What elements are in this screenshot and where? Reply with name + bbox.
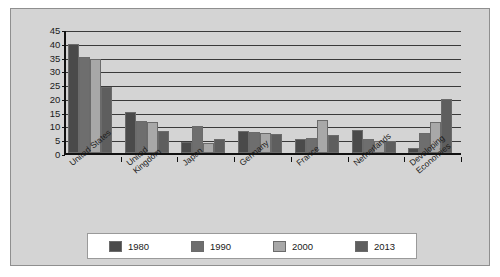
- y-axis-tick-mark: [62, 59, 65, 60]
- plot-area: [64, 31, 461, 155]
- x-axis-tick-mark: [234, 157, 235, 162]
- y-axis-tick-label: 30: [32, 67, 60, 77]
- legend-item[interactable]: 1980: [109, 241, 149, 252]
- bar-group: [295, 31, 339, 153]
- chart-screenshot: 454035302520151050 United StatesUnited K…: [0, 0, 500, 277]
- x-axis-tick-mark: [177, 157, 178, 162]
- y-axis-tick-mark: [62, 127, 65, 128]
- chart-frame: 454035302520151050 United StatesUnited K…: [10, 8, 490, 266]
- y-axis-tick-label: 35: [32, 54, 60, 64]
- y-axis-tick-label: 15: [32, 109, 60, 119]
- bar: [125, 112, 136, 153]
- y-axis-tick-mark: [62, 141, 65, 142]
- legend-label: 1980: [128, 241, 149, 252]
- legend-label: 2013: [374, 241, 395, 252]
- x-axis-category-labels: United StatesUnited KingdomJapanGermanyF…: [64, 157, 464, 217]
- y-axis-tick-mark: [62, 100, 65, 101]
- x-axis-tick-mark: [348, 157, 349, 162]
- y-axis-tick-mark: [62, 86, 65, 87]
- legend-swatch: [355, 241, 368, 252]
- y-axis-tick-label: 0: [32, 150, 60, 160]
- x-axis-tick-mark: [461, 157, 462, 162]
- bar-group: [238, 31, 282, 153]
- y-axis-tick-label: 10: [32, 122, 60, 132]
- x-axis-tick-mark: [121, 157, 122, 162]
- y-axis-tick-label: 25: [32, 81, 60, 91]
- y-axis-tick-mark: [62, 155, 65, 156]
- bar-group: [125, 31, 169, 153]
- bar-group: [408, 31, 452, 153]
- x-axis-tick-mark: [404, 157, 405, 162]
- y-axis-tick-mark: [62, 72, 65, 73]
- y-axis-tick-label: 40: [32, 40, 60, 50]
- y-axis-tick-mark: [62, 114, 65, 115]
- y-axis-tick-mark: [62, 31, 65, 32]
- y-axis-tick-label: 5: [32, 136, 60, 146]
- bar: [352, 130, 363, 153]
- legend-item[interactable]: 1990: [191, 241, 231, 252]
- legend-label: 1990: [210, 241, 231, 252]
- legend-swatch: [109, 241, 122, 252]
- bar: [68, 44, 79, 153]
- x-axis-tick-mark: [291, 157, 292, 162]
- y-axis: 454035302520151050: [30, 31, 60, 155]
- bar: [214, 139, 225, 153]
- y-axis-tick-mark: [62, 45, 65, 46]
- bar: [271, 134, 282, 153]
- bar: [79, 57, 90, 153]
- bar: [203, 143, 214, 153]
- legend-swatch: [273, 241, 286, 252]
- legend-swatch: [191, 241, 204, 252]
- bar: [238, 131, 249, 153]
- legend-label: 2000: [292, 241, 313, 252]
- chart-legend: 1980199020002013: [87, 233, 417, 259]
- bar: [328, 135, 339, 153]
- y-axis-tick-label: 45: [32, 26, 60, 36]
- legend-item[interactable]: 2013: [355, 241, 395, 252]
- legend-item[interactable]: 2000: [273, 241, 313, 252]
- y-axis-tick-label: 20: [32, 95, 60, 105]
- bar-group: [181, 31, 225, 153]
